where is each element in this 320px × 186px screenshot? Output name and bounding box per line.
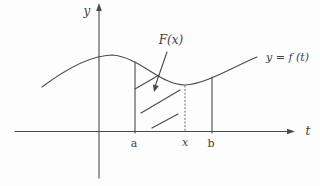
curve-y-equals-f-t (42, 55, 257, 87)
t-axis-arrowhead-icon (287, 129, 295, 135)
y-axis-arrowhead-icon (96, 3, 102, 11)
region-pointer-arrowhead-icon (153, 84, 159, 92)
region-label-Fx: F(x) (158, 33, 184, 47)
tick-label-b: b (207, 137, 214, 150)
hatch-stroke-3 (152, 114, 178, 128)
t-axis-label: t (306, 124, 311, 138)
function-area-diagram: y t F(x) y = f (t) a x b (0, 0, 320, 186)
curve-label: y = f (t) (265, 51, 309, 64)
tick-label-a: a (131, 137, 138, 150)
diagram-svg: y t F(x) y = f (t) a x b (0, 0, 320, 186)
region-pointer-arrow-shaft (155, 52, 168, 88)
y-axis-label: y (83, 4, 91, 18)
tick-label-x: x (182, 136, 189, 149)
hatch-stroke-2 (141, 90, 180, 113)
